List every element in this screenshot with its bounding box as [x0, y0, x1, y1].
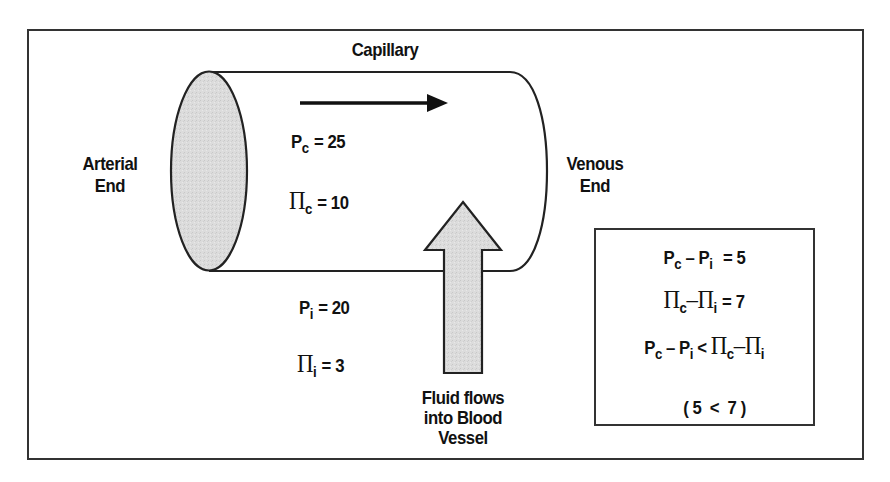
- symbol: Π: [297, 349, 313, 378]
- symbol: P: [645, 337, 656, 358]
- venous-end-label-line2: End: [551, 175, 639, 197]
- pressure-summary-box: Pc – Pi= 5 Πc–Πi= 7 Pc – Pi < Πc–Πi ( 5 …: [594, 228, 815, 426]
- symbol: P: [664, 247, 675, 268]
- numeric-comparison-text: ( 5 < 7 ): [683, 397, 746, 419]
- capillary-oncotic-pressure: Πc= 10: [289, 186, 349, 216]
- subscript: c: [305, 200, 312, 217]
- pressure-comparison: Pc – Pi < Πc–Πi: [596, 331, 813, 361]
- symbol: Π: [711, 331, 727, 360]
- value: = 20: [318, 297, 349, 318]
- arterial-end-label-line1: Arterial: [66, 153, 154, 175]
- value: = 25: [314, 131, 345, 152]
- subscript: i: [709, 255, 712, 272]
- subscript: c: [302, 139, 309, 156]
- fluid-flow-label-line3: Vessel: [410, 428, 516, 448]
- hydrostatic-difference: Pc – Pi= 5: [596, 247, 813, 269]
- subscript: i: [310, 305, 313, 322]
- subscript: i: [761, 345, 764, 362]
- arterial-end-label-line2: End: [66, 175, 154, 197]
- numeric-comparison: ( 5 < 7 ): [596, 375, 813, 441]
- operator: – P: [685, 247, 709, 268]
- fluid-flow-label-line1: Fluid flows: [410, 388, 516, 408]
- symbol: P: [299, 297, 310, 318]
- result: = 7: [723, 291, 745, 312]
- venous-end-label: Venous End: [551, 153, 639, 197]
- fluid-inflow-arrow-icon: [425, 202, 501, 373]
- interstitial-oncotic-pressure: Πi= 3: [297, 349, 344, 379]
- arterial-end-opening: [171, 72, 247, 271]
- value: = 3: [322, 355, 344, 376]
- comparator: <: [698, 337, 707, 358]
- oncotic-difference: Πc–Πi= 7: [596, 285, 813, 315]
- subscript: i: [313, 363, 316, 380]
- subscript: c: [655, 345, 662, 362]
- symbol: Π: [289, 186, 305, 215]
- arterial-end-label: Arterial End: [66, 153, 154, 197]
- subscript: i: [714, 299, 717, 316]
- result: = 5: [723, 247, 745, 268]
- subscript: c: [727, 345, 734, 362]
- symbol: Π: [664, 285, 680, 314]
- interstitial-hydrostatic-pressure: Pi= 20: [299, 297, 349, 319]
- subscript: i: [690, 345, 693, 362]
- fluid-flow-label: Fluid flows into Blood Vessel: [410, 388, 516, 448]
- blood-flow-arrow-icon: [300, 94, 448, 112]
- subscript: c: [680, 299, 687, 316]
- capillary-hydrostatic-pressure: Pc= 25: [291, 131, 345, 153]
- venous-end-label-line1: Venous: [551, 153, 639, 175]
- operator: – P: [666, 337, 690, 358]
- operator: –Π: [734, 331, 761, 360]
- fluid-flow-label-line2: into Blood: [410, 408, 516, 428]
- value: = 10: [317, 192, 348, 213]
- subscript: c: [674, 255, 681, 272]
- operator: –Π: [687, 285, 714, 314]
- capillary-title: Capillary: [328, 39, 442, 61]
- symbol: P: [291, 131, 302, 152]
